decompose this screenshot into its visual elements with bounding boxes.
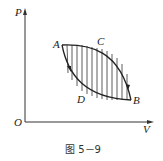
point-c-label: C xyxy=(97,35,105,47)
v-axis-label: V xyxy=(143,123,151,135)
hatched-area xyxy=(67,45,127,100)
origin-label: O xyxy=(14,116,22,128)
pv-diagram: P V O A C B D 图 5－9 xyxy=(0,0,163,161)
point-b-label: B xyxy=(133,94,140,106)
point-a-label: A xyxy=(52,38,60,50)
point-d-label: D xyxy=(76,93,85,105)
figure-caption: 图 5－9 xyxy=(65,144,101,155)
p-axis-arrow-icon xyxy=(23,8,27,15)
p-axis-label: P xyxy=(14,6,22,18)
axes xyxy=(23,8,154,124)
